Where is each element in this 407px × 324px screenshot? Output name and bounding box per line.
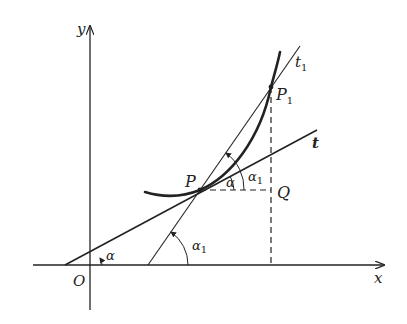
angle-arc-alpha-origin [100, 258, 102, 265]
origin-label: O [73, 272, 85, 290]
point-P-label: P [184, 172, 196, 191]
angle-arc-alpha1-xaxis [171, 232, 188, 265]
point-P1-label: P1 [275, 85, 293, 106]
secant-line-t1 [148, 46, 300, 265]
angle-alpha-label-P: α [226, 175, 235, 190]
angle-alpha1-label-P: α1 [248, 169, 263, 186]
angle-alpha1-label-xaxis: α1 [192, 238, 207, 255]
angle-alpha-label-origin: α [106, 248, 115, 263]
point-P1 [269, 85, 274, 90]
point-P [198, 188, 203, 193]
diagram-canvas: y x O P P1 Q t t1 α α1 α α1 [0, 0, 407, 324]
line-t1-label: t1 [295, 53, 307, 73]
x-axis-label: x [374, 269, 383, 287]
y-axis-label: y [76, 20, 86, 38]
point-Q-label: Q [277, 183, 290, 202]
line-t-label: t [312, 134, 319, 152]
